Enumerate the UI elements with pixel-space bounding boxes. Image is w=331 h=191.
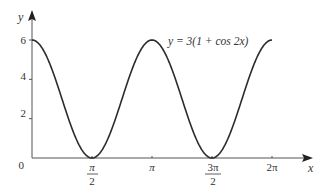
x-tick-label-3pi-over-2: 3π 2 bbox=[205, 161, 221, 187]
y-tick-label-4: 4 bbox=[21, 70, 27, 82]
ticks bbox=[29, 40, 272, 158]
svg-text:3π: 3π bbox=[207, 161, 219, 173]
svg-text:π: π bbox=[89, 161, 95, 173]
svg-text:2: 2 bbox=[210, 175, 216, 187]
origin-label: 0 bbox=[19, 159, 25, 171]
x-axis-label: x bbox=[307, 161, 314, 175]
x-tick-label-pi-over-2: π 2 bbox=[87, 161, 98, 187]
svg-text:2: 2 bbox=[89, 175, 95, 187]
cosine-curve bbox=[32, 40, 272, 158]
chart: y x 0 2 4 6 π 2 π 3π 2 2π y = 3(1 + cos … bbox=[0, 0, 331, 191]
equation-label: y = 3(1 + cos 2x) bbox=[167, 35, 249, 48]
axes bbox=[28, 10, 313, 162]
x-tick-label-2pi: 2π bbox=[266, 161, 278, 173]
y-tick-label-2: 2 bbox=[21, 107, 27, 119]
y-axis-label: y bbox=[17, 10, 24, 24]
x-tick-label-pi: π bbox=[149, 161, 155, 173]
y-tick-label-6: 6 bbox=[21, 34, 27, 46]
